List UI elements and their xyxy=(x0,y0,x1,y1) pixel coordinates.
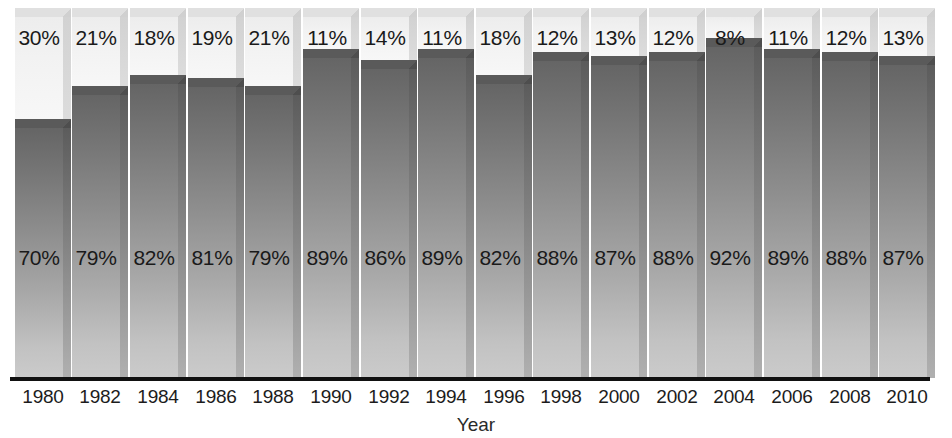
bar-cap-lower xyxy=(533,52,589,61)
bar-cap-face-lower xyxy=(130,75,178,84)
bar-stack: 14%86% xyxy=(361,0,417,380)
bar-stack: 11%89% xyxy=(418,0,474,380)
bar-side-face-lower xyxy=(63,128,71,378)
bar-cap-face-upper xyxy=(361,8,409,17)
bar-cap-bevel-lower xyxy=(524,75,532,84)
bar-cap-face-upper xyxy=(418,8,466,17)
bar-stack: 21%79% xyxy=(72,0,128,380)
bar-cap-upper xyxy=(764,8,820,17)
bar-cap-bevel-lower xyxy=(63,119,71,128)
bar-cap-upper xyxy=(361,8,417,17)
bar-cap-upper xyxy=(245,8,301,17)
bar-cap-upper xyxy=(303,8,359,17)
bar-side-face-upper xyxy=(120,17,128,86)
x-axis-tick-label: 1988 xyxy=(245,386,301,408)
bar-value-label-upper: 14% xyxy=(361,26,409,50)
bar-side-face-lower xyxy=(466,58,474,378)
bar-cap-bevel-upper xyxy=(236,8,244,17)
x-axis-line xyxy=(10,377,930,381)
bar-segment-lower xyxy=(72,95,120,378)
bar-column: 18%82% xyxy=(476,0,532,380)
bar-cap-bevel-upper xyxy=(524,8,532,17)
bar-cap-face-lower xyxy=(418,49,466,58)
bar-side-face-upper xyxy=(466,17,474,49)
bar-stack: 13%87% xyxy=(879,0,935,380)
bar-side-face-lower xyxy=(754,47,762,378)
bar-cap-face-upper xyxy=(15,8,63,17)
bar-cap-face-lower xyxy=(591,56,639,65)
bar-cap-lower xyxy=(245,86,301,95)
bar-cap-upper xyxy=(591,8,647,17)
bar-side-face-upper xyxy=(754,17,762,38)
bar-segment-lower xyxy=(591,65,639,378)
bar-stack: 18%82% xyxy=(476,0,532,380)
bar-segment-lower xyxy=(188,87,236,378)
bar-segment-lower xyxy=(649,61,697,378)
bar-cap-lower xyxy=(879,56,935,65)
bar-side-face-lower xyxy=(870,61,878,378)
x-axis-tick-labels: 1980198219841986198819901992199419961998… xyxy=(0,386,952,412)
bar-side-face-upper xyxy=(639,17,647,56)
x-axis-tick-label: 1980 xyxy=(15,386,71,408)
bar-cap-upper xyxy=(418,8,474,17)
x-axis-tick-label: 1992 xyxy=(361,386,417,408)
bar-value-label-upper: 11% xyxy=(418,26,466,50)
bar-cap-lower xyxy=(764,49,820,58)
bar-segment-lower xyxy=(764,58,812,378)
bar-cap-bevel-upper xyxy=(178,8,186,17)
bar-cap-bevel-lower xyxy=(466,49,474,58)
bar-value-label-lower: 82% xyxy=(130,246,178,270)
bar-cap-bevel-upper xyxy=(581,8,589,17)
bar-cap-bevel-lower xyxy=(812,49,820,58)
bar-side-face-upper xyxy=(927,17,935,56)
bar-cap-face-upper xyxy=(533,8,581,17)
bar-value-label-lower: 86% xyxy=(361,246,409,270)
bar-side-face-upper xyxy=(63,17,71,119)
bar-value-label-upper: 12% xyxy=(649,26,697,50)
bar-column: 13%87% xyxy=(879,0,935,380)
bar-cap-upper xyxy=(476,8,532,17)
bar-cap-face-lower xyxy=(188,78,236,87)
plot-area: 30%70%21%79%18%82%19%81%21%79%11%89%14%8… xyxy=(0,0,952,380)
bar-value-label-upper: 21% xyxy=(72,26,120,50)
bar-cap-face-lower xyxy=(15,119,63,128)
bar-stack: 21%79% xyxy=(245,0,301,380)
bar-value-label-lower: 89% xyxy=(303,246,351,270)
bar-column: 11%89% xyxy=(418,0,474,380)
bar-value-label-upper: 18% xyxy=(130,26,178,50)
bar-value-label-lower: 87% xyxy=(591,246,639,270)
bar-side-face-upper xyxy=(697,17,705,52)
bar-side-face-lower xyxy=(351,58,359,378)
bar-column: 14%86% xyxy=(361,0,417,380)
bar-value-label-upper: 12% xyxy=(822,26,870,50)
x-axis-tick-label: 1996 xyxy=(476,386,532,408)
bar-stack: 12%88% xyxy=(822,0,878,380)
bar-cap-lower xyxy=(188,78,244,87)
bar-cap-upper xyxy=(649,8,705,17)
bar-value-label-lower: 89% xyxy=(418,246,466,270)
bar-side-face-lower xyxy=(120,95,128,378)
bar-side-face-upper xyxy=(581,17,589,52)
bar-column: 21%79% xyxy=(245,0,301,380)
bar-stack: 12%88% xyxy=(649,0,705,380)
bar-cap-bevel-upper xyxy=(351,8,359,17)
bar-value-label-lower: 87% xyxy=(879,246,927,270)
bar-side-face-upper xyxy=(524,17,532,75)
bar-value-label-lower: 82% xyxy=(476,246,524,270)
bar-column: 30%70% xyxy=(15,0,71,380)
bar-cap-bevel-lower xyxy=(351,49,359,58)
bar-segment-lower xyxy=(822,61,870,378)
bar-side-face-upper xyxy=(409,17,417,60)
bar-value-label-upper: 19% xyxy=(188,26,236,50)
x-axis-tick-label: 1994 xyxy=(418,386,474,408)
bar-column: 11%89% xyxy=(764,0,820,380)
bar-stack: 30%70% xyxy=(15,0,71,380)
x-axis-tick-label: 2008 xyxy=(822,386,878,408)
bar-column: 12%88% xyxy=(822,0,878,380)
bar-cap-bevel-upper xyxy=(293,8,301,17)
bar-value-label-upper: 13% xyxy=(879,26,927,50)
bar-side-face-upper xyxy=(812,17,820,49)
bar-side-face-lower xyxy=(409,69,417,378)
bar-cap-face-lower xyxy=(72,86,120,95)
bar-value-label-upper: 21% xyxy=(245,26,293,50)
